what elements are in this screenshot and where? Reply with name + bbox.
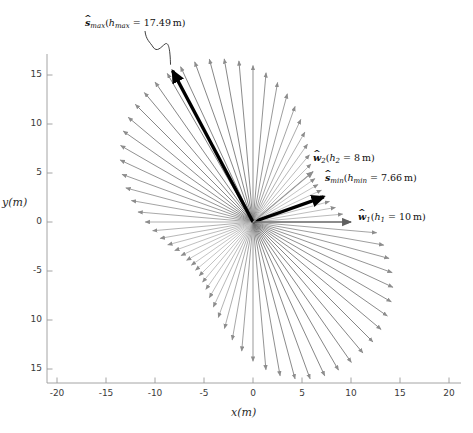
- y-tick-label: 5: [20, 167, 42, 177]
- y-axis-ticks: [47, 75, 53, 369]
- x-tick-label: -10: [146, 388, 164, 398]
- leader-line: [145, 31, 171, 65]
- x-tick-label: 15: [391, 388, 409, 398]
- x-tick-label: 0: [244, 388, 262, 398]
- y-tick-label: 15: [20, 69, 42, 79]
- vector-s_max: [173, 71, 253, 222]
- annotation-w2: w2(h2 = 8 m): [313, 152, 375, 165]
- y-tick-label: 0: [20, 216, 42, 226]
- annotation-w1: w1(h1 = 10 m): [358, 211, 426, 224]
- annotation-s-max: smax(hmax = 17.49 m): [85, 17, 186, 30]
- x-tick-label: -15: [97, 388, 115, 398]
- y-tick-label: 10: [20, 118, 42, 128]
- y-tick-label: 10: [20, 314, 42, 324]
- figure-canvas: -20-15-10-505101520 151050-51015 x(m) y(…: [0, 0, 473, 433]
- x-tick-label: -20: [48, 388, 66, 398]
- y-tick-label: -5: [20, 265, 42, 275]
- y-axis-title: y(m): [2, 196, 27, 209]
- x-tick-label: 5: [293, 388, 311, 398]
- x-tick-label: 20: [440, 388, 458, 398]
- x-tick-label: 10: [342, 388, 360, 398]
- x-axis-ticks: [57, 378, 449, 384]
- annotation-s-min: smin(hmin = 7.66 m): [325, 172, 417, 185]
- highlighted-vectors: [173, 71, 351, 222]
- y-tick-label: 15: [20, 363, 42, 373]
- x-tick-label: -5: [195, 388, 213, 398]
- x-axis-title: x(m): [231, 406, 256, 419]
